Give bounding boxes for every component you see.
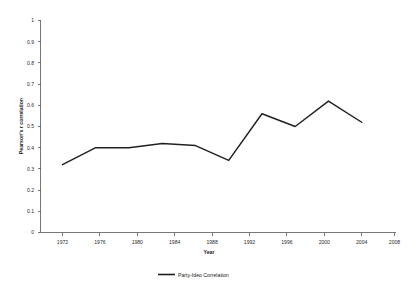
x-tick-label: 2004 <box>356 239 367 245</box>
chart-legend: Party-Ideo Correlation <box>158 272 229 278</box>
x-axis-ticks <box>63 233 395 236</box>
y-axis-ticks <box>38 21 41 233</box>
x-tick-label: 1980 <box>132 239 143 245</box>
y-tick-label: 0.4 <box>27 145 34 151</box>
series-party-ideo-correlation <box>63 101 362 165</box>
x-tick-label: 1996 <box>281 239 292 245</box>
y-tick-label: 0 <box>31 229 34 235</box>
legend-label: Party-Ideo Correlation <box>178 272 229 278</box>
y-tick-label: 0.6 <box>27 102 34 108</box>
y-tick-label: 0.7 <box>27 81 34 87</box>
x-tick-label: 1984 <box>169 239 180 245</box>
y-tick-label: 0.5 <box>27 123 34 129</box>
y-tick-label: 0.8 <box>27 60 34 66</box>
y-axis-title: Pearson's r correlation <box>18 98 24 154</box>
x-tick-label: 2008 <box>389 239 400 245</box>
x-tick-label: 1988 <box>206 239 217 245</box>
x-axis-title: Year <box>204 249 215 255</box>
chart-canvas: 0 0.1 0.2 0.3 0.4 0.5 0.6 0.7 0.8 0.9 1 <box>0 0 420 289</box>
y-tick-label: 1 <box>31 17 34 23</box>
x-tick-label: 1992 <box>244 239 255 245</box>
x-tick-label: 2000 <box>319 239 330 245</box>
y-axis-tick-labels: 0 0.1 0.2 0.3 0.4 0.5 0.6 0.7 0.8 0.9 1 <box>27 17 34 235</box>
line-chart: 0 0.1 0.2 0.3 0.4 0.5 0.6 0.7 0.8 0.9 1 <box>0 0 420 289</box>
y-tick-label: 0.1 <box>27 208 34 214</box>
x-tick-label: 1976 <box>94 239 105 245</box>
y-tick-label: 0.2 <box>27 187 34 193</box>
x-tick-label: 1972 <box>57 239 68 245</box>
x-axis-tick-labels: 1972 1976 1980 1984 1988 1992 1996 2000 … <box>57 239 400 245</box>
y-tick-label: 0.9 <box>27 39 34 45</box>
y-tick-label: 0.3 <box>27 166 34 172</box>
